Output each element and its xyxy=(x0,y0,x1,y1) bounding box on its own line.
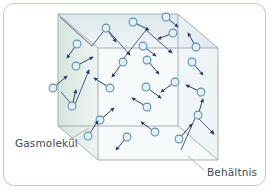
molecule-circle xyxy=(73,40,81,48)
molecule-circle xyxy=(72,62,80,70)
cube-face-front xyxy=(98,48,218,160)
molecule-circle xyxy=(162,13,170,21)
molecule-circle xyxy=(102,24,110,32)
molecule-circle xyxy=(129,18,137,26)
molecule-circle xyxy=(119,58,127,66)
molecule-circle xyxy=(175,135,183,143)
molecule-circle xyxy=(192,43,200,51)
molecule-circle xyxy=(123,133,131,141)
molecule-circle xyxy=(197,88,205,96)
molecule-circle xyxy=(84,132,92,140)
molecule-circle xyxy=(68,102,76,110)
molecule-circle xyxy=(143,103,151,111)
molecule-circle xyxy=(194,111,202,119)
molecule-circle xyxy=(49,84,57,92)
figure-canvas: Gasmolekül Behältnis xyxy=(0,0,275,195)
molecule-circle xyxy=(171,78,179,86)
molecule-circle xyxy=(143,56,151,64)
molecule-circle xyxy=(139,42,147,50)
molecule-circle xyxy=(151,128,159,136)
molecule-circle xyxy=(142,83,150,91)
label-gasmolekuel: Gasmolekül xyxy=(15,137,78,149)
molecule-circle xyxy=(106,84,114,92)
molecule-circle xyxy=(169,29,177,37)
label-behaeltnis: Behältnis xyxy=(207,166,257,178)
molecule-circle xyxy=(188,58,196,66)
